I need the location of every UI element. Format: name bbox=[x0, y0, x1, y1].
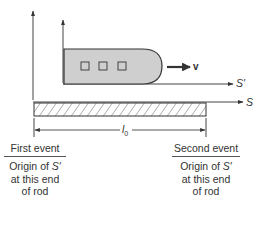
s-axis-label: S bbox=[246, 96, 253, 108]
proper-length-label: l0 bbox=[120, 123, 130, 140]
velocity-label: v bbox=[193, 61, 199, 73]
first-event-line3: of rod bbox=[4, 185, 66, 197]
second-event-line3: of rod bbox=[172, 185, 240, 197]
first-event-caption: First event Origin of S′ at this end of … bbox=[4, 142, 66, 197]
spaceship-body bbox=[64, 49, 162, 84]
second-event-line2: at this end bbox=[172, 173, 240, 185]
s-prime-axis-label: S′ bbox=[236, 77, 245, 89]
first-event-title: First event bbox=[4, 142, 66, 157]
second-event-line1: Origin of S′ bbox=[172, 160, 240, 172]
first-event-line2: at this end bbox=[4, 173, 66, 185]
first-event-line1: Origin of S′ bbox=[4, 160, 66, 172]
rod bbox=[34, 103, 206, 116]
second-event-caption: Second event Origin of S′ at this end of… bbox=[172, 142, 240, 197]
second-event-title: Second event bbox=[172, 142, 240, 157]
length-subscript: 0 bbox=[124, 130, 128, 137]
